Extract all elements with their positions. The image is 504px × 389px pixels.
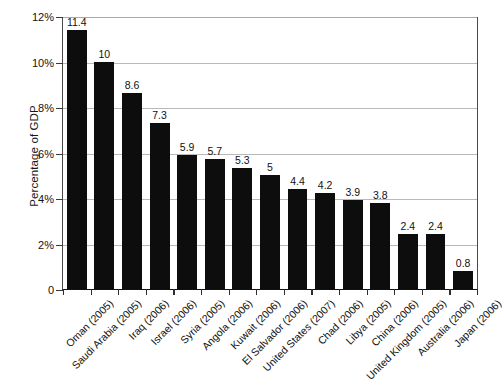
bar-value-label: 5.3	[235, 154, 250, 166]
bar-value-label: 5.9	[180, 141, 195, 153]
bar-slot: 10	[91, 17, 119, 289]
y-axis-tick	[56, 63, 63, 64]
bar-slot: 7.3	[146, 17, 174, 289]
bar-series: 11.4108.67.35.95.75.354.44.23.93.82.42.4…	[63, 17, 477, 289]
bar-value-label: 0.8	[456, 257, 471, 269]
bar-value-label: 2.4	[428, 220, 443, 232]
bar-value-label: 5.7	[207, 145, 222, 157]
bar[interactable]: 7.3	[150, 123, 170, 289]
y-axis-tick-label: 2%	[38, 239, 54, 251]
bar-value-label: 8.6	[125, 79, 140, 91]
bar[interactable]: 11.4	[67, 30, 87, 289]
y-axis-tick-label: 12%	[32, 11, 54, 23]
x-axis-tick	[394, 289, 395, 295]
x-axis-tick	[173, 289, 174, 295]
bar-value-label: 3.8	[373, 189, 388, 201]
bar-slot: 5.3	[229, 17, 257, 289]
y-axis-tick	[56, 108, 63, 109]
bar-slot: 11.4	[63, 17, 91, 289]
x-axis-tick	[339, 289, 340, 295]
bar-slot: 5	[256, 17, 284, 289]
plot-area: 02%4%6%8%10%12% 11.4108.67.35.95.75.354.…	[62, 17, 478, 290]
bar-slot: 4.2	[311, 17, 339, 289]
x-axis-tick	[477, 289, 478, 295]
y-axis-tick-label: 10%	[32, 57, 54, 69]
x-axis-tick	[256, 289, 257, 295]
bar-slot: 2.4	[394, 17, 422, 289]
bar[interactable]: 0.8	[453, 271, 473, 289]
x-axis-labels: Oman (2005)Saudi Arabia (2005)Iraq (2006…	[62, 297, 478, 389]
bar-value-label: 2.4	[401, 220, 416, 232]
x-axis-tick	[449, 289, 450, 295]
y-axis-tick-label: 8%	[38, 102, 54, 114]
bar-value-label: 7.3	[152, 109, 167, 121]
bar[interactable]: 2.4	[398, 234, 418, 289]
y-axis-tick	[56, 199, 63, 200]
bar[interactable]: 3.8	[370, 203, 390, 289]
y-axis-tick	[56, 245, 63, 246]
bar-slot: 2.4	[422, 17, 450, 289]
bar[interactable]: 5.9	[177, 155, 197, 289]
bar[interactable]: 8.6	[122, 93, 142, 289]
bar-slot: 8.6	[118, 17, 146, 289]
bar-value-label: 4.2	[318, 179, 333, 191]
x-axis-tick	[146, 289, 147, 295]
bar-value-label: 11.4	[67, 16, 87, 28]
bar[interactable]: 5.7	[205, 159, 225, 289]
bar[interactable]: 5	[260, 175, 280, 289]
bar[interactable]: 10	[94, 62, 114, 290]
bar-value-label: 3.9	[345, 186, 360, 198]
bar-slot: 0.8	[449, 17, 477, 289]
x-axis-tick	[422, 289, 423, 295]
y-axis-tick-label: 6%	[38, 148, 54, 160]
x-axis-tick	[201, 289, 202, 295]
bar-value-label: 4.4	[290, 175, 305, 187]
bar[interactable]: 5.3	[232, 168, 252, 289]
x-axis-tick	[284, 289, 285, 295]
bar-value-label: 5	[267, 161, 273, 173]
y-axis-tick-label: 0	[48, 284, 54, 296]
bar[interactable]: 3.9	[343, 200, 363, 289]
x-axis-tick	[118, 289, 119, 295]
y-axis-tick	[56, 154, 63, 155]
bar-slot: 3.8	[367, 17, 395, 289]
x-axis-tick	[311, 289, 312, 295]
x-axis-tick	[91, 289, 92, 295]
bar[interactable]: 4.4	[288, 189, 308, 289]
y-axis-tick	[56, 290, 63, 291]
x-axis-tick	[229, 289, 230, 295]
bar-slot: 3.9	[339, 17, 367, 289]
y-axis-tick	[56, 17, 63, 18]
bar-slot: 5.7	[201, 17, 229, 289]
x-axis-tick	[367, 289, 368, 295]
bar-slot: 5.9	[173, 17, 201, 289]
bar-slot: 4.4	[284, 17, 312, 289]
y-axis-tick-label: 4%	[38, 193, 54, 205]
bar-value-label: 10	[99, 48, 111, 60]
bar[interactable]: 4.2	[315, 193, 335, 289]
x-axis-tick	[63, 289, 64, 295]
bar[interactable]: 2.4	[426, 234, 446, 289]
